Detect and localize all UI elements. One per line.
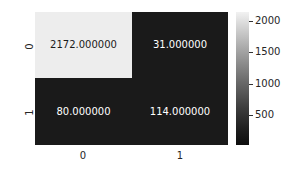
colorbar-tick-mark-2000 [249,21,253,22]
heatmap-cell-value: 80.000000 [56,107,110,117]
colorbar-tick-mark-500 [249,115,253,116]
heatmap-cell-0-1: 31.000000 [132,12,228,78]
colorbar-tick-label-1500: 1500 [255,47,280,57]
heatmap-figure: 2172.000000 31.000000 80.000000 114.0000… [0,0,297,173]
heatmap-cell-1-1: 114.000000 [132,78,228,145]
colorbar-tick-label-2000: 2000 [255,16,280,26]
colorbar-tick-label-500: 500 [255,110,274,120]
heatmap-cell-value: 2172.000000 [50,40,117,50]
colorbar-gradient [236,12,249,145]
colorbar-tick-label-1000: 1000 [255,79,280,89]
colorbar-tick-mark-1000 [249,84,253,85]
heatmap-axes: 2172.000000 31.000000 80.000000 114.0000… [35,12,228,145]
x-axis-tick-label-0: 0 [68,150,98,161]
y-axis-tick-label-1: 1 [24,106,35,120]
heatmap-cell-0-0: 2172.000000 [35,12,132,78]
heatmap-cell-value: 31.000000 [153,40,207,50]
colorbar: 2000 1500 1000 500 [236,12,249,145]
y-axis-tick-label-0: 0 [24,40,35,54]
x-axis-tick-label-1: 1 [165,150,195,161]
heatmap-cell-value: 114.000000 [150,107,210,117]
colorbar-tick-mark-1500 [249,52,253,53]
heatmap-cell-1-0: 80.000000 [35,78,132,145]
